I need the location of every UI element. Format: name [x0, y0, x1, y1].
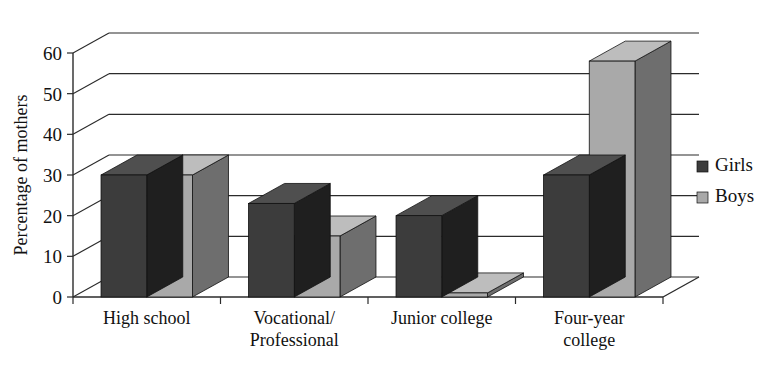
legend-item-boys[interactable]: Boys [697, 185, 754, 206]
bar-girls-1 [249, 183, 331, 297]
bar-girls-3 [544, 155, 626, 297]
category-label-3: Four-yearcollege [554, 308, 625, 350]
bar-girls-2 [396, 196, 478, 297]
y-tick-label: 30 [43, 165, 62, 186]
legend-label-girls: Girls [715, 154, 753, 175]
y-tick-labels-group: 0102030405060 [43, 43, 73, 308]
y-tick-label: 60 [43, 43, 62, 64]
bar-chart: 0102030405060 High schoolVocational/Prof… [0, 0, 783, 375]
y-axis-title: Percentage of mothers [11, 95, 31, 256]
category-label-0: High school [103, 308, 191, 328]
y-axis-title-group: Percentage of mothers [11, 95, 31, 256]
legend-label-boys: Boys [715, 185, 754, 206]
chart-container: 0102030405060 High schoolVocational/Prof… [0, 0, 783, 375]
category-labels-group: High schoolVocational/ProfessionalJunior… [103, 308, 625, 350]
legend-swatch-boys [697, 192, 708, 203]
x-tick-marks-group [73, 297, 663, 304]
legend-swatch-girls [697, 161, 708, 172]
category-label-2: Junior college [391, 308, 492, 328]
y-tick-label: 0 [53, 287, 63, 308]
y-tick-label: 40 [43, 124, 62, 145]
bar-girls-0 [101, 155, 183, 297]
category-label-1: Vocational/Professional [250, 308, 339, 350]
y-tick-label: 10 [43, 246, 62, 267]
y-tick-label: 20 [43, 206, 62, 227]
legend-group: GirlsBoys [697, 154, 754, 206]
y-tick-label: 50 [43, 84, 62, 105]
bars-group [101, 41, 671, 297]
legend-item-girls[interactable]: Girls [697, 154, 753, 175]
